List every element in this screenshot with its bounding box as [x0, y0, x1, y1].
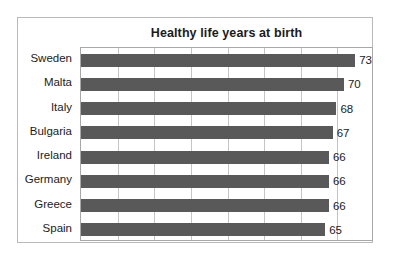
bar-value-label: 65 — [329, 224, 342, 236]
bar-row: 73 — [81, 48, 372, 72]
bar-value-label: 66 — [333, 175, 346, 187]
bar-value-label: 73 — [359, 54, 372, 66]
bar: 67 — [81, 126, 333, 139]
bar-row: 68 — [81, 97, 372, 121]
bar: 73 — [81, 54, 355, 67]
bar-row: 66 — [81, 145, 372, 169]
category-label: Malta — [17, 70, 75, 94]
bar: 68 — [81, 102, 336, 115]
category-label: Germany — [17, 167, 75, 191]
bar-row: 65 — [81, 218, 372, 242]
category-label: Greece — [17, 192, 75, 216]
bar: 70 — [81, 78, 344, 91]
bar: 66 — [81, 199, 329, 212]
category-axis-labels: SwedenMaltaItalyBulgariaIrelandGermanyGr… — [17, 46, 75, 240]
bar: 66 — [81, 175, 329, 188]
bar-row: 67 — [81, 121, 372, 145]
bar-value-label: 67 — [337, 127, 350, 139]
category-label: Spain — [17, 216, 75, 240]
plot-area: 7370686766666665 — [80, 47, 373, 241]
bar-value-label: 66 — [333, 200, 346, 212]
bar-row: 66 — [81, 194, 372, 218]
bar-value-label: 70 — [348, 78, 361, 90]
bar-value-label: 66 — [333, 151, 346, 163]
bar: 66 — [81, 151, 329, 164]
bar: 65 — [81, 223, 325, 236]
bar-rows: 7370686766666665 — [81, 48, 372, 240]
chart-title: Healthy life years at birth — [80, 26, 373, 40]
bar-row: 66 — [81, 169, 372, 193]
category-label: Italy — [17, 95, 75, 119]
bar-row: 70 — [81, 72, 372, 96]
bar-value-label: 68 — [340, 103, 353, 115]
category-label: Ireland — [17, 143, 75, 167]
category-label: Sweden — [17, 46, 75, 70]
category-label: Bulgaria — [17, 119, 75, 143]
